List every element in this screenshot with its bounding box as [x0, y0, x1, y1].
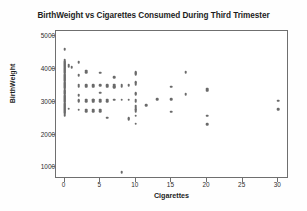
- data-point: [92, 85, 95, 88]
- x-tick-label: 0: [49, 181, 79, 188]
- y-tick-label: 2000: [13, 130, 55, 137]
- data-point: [135, 83, 138, 86]
- x-tick-label: 20: [191, 181, 221, 188]
- data-point: [99, 71, 102, 74]
- data-point: [145, 104, 148, 107]
- data-point: [127, 118, 130, 121]
- y-axis-ticks: 10002000300040005000: [0, 0, 55, 211]
- data-point: [277, 108, 280, 111]
- data-point: [206, 114, 209, 117]
- data-point: [78, 94, 81, 97]
- data-point: [135, 110, 138, 113]
- x-tick-label: 25: [227, 181, 257, 188]
- plot-area: [55, 30, 288, 178]
- data-point: [68, 107, 71, 110]
- data-point: [106, 100, 109, 103]
- data-point: [78, 61, 81, 64]
- data-point: [206, 90, 209, 93]
- data-point: [184, 93, 187, 96]
- data-point: [85, 100, 88, 103]
- data-point: [99, 84, 102, 87]
- y-tick-label: 1000: [13, 163, 55, 170]
- data-point: [127, 84, 130, 87]
- data-point: [99, 110, 102, 113]
- data-point: [135, 114, 138, 117]
- x-tick-mark: [170, 178, 171, 182]
- x-tick-mark: [64, 178, 65, 182]
- x-tick-mark: [135, 178, 136, 182]
- data-point: [99, 100, 102, 103]
- x-tick-label: 15: [155, 181, 185, 188]
- data-point: [135, 73, 138, 76]
- data-point: [78, 108, 81, 111]
- data-point: [184, 71, 187, 74]
- scatter-plot-figure: BirthWeight vs Cigarettes Consumed Durin…: [0, 0, 307, 211]
- data-point: [78, 100, 81, 103]
- data-point: [78, 85, 81, 88]
- data-point: [135, 100, 138, 103]
- data-point: [127, 98, 130, 101]
- data-point: [92, 100, 95, 103]
- x-tick-mark: [206, 178, 207, 182]
- data-point: [156, 98, 159, 101]
- x-tick-label: 10: [120, 181, 150, 188]
- data-point: [85, 71, 88, 74]
- data-point: [206, 123, 209, 126]
- x-tick-mark: [277, 178, 278, 182]
- y-tick-label: 3000: [13, 97, 55, 104]
- x-tick-mark: [99, 178, 100, 182]
- data-point: [170, 85, 173, 88]
- data-point: [113, 98, 116, 101]
- data-point: [113, 76, 116, 79]
- data-point: [170, 98, 173, 101]
- data-point: [135, 122, 138, 125]
- y-tick-label: 5000: [13, 31, 55, 38]
- data-point: [63, 48, 66, 51]
- data-point: [120, 98, 123, 101]
- data-point: [106, 117, 109, 120]
- data-point: [85, 85, 88, 88]
- x-tick-label: 30: [262, 181, 292, 188]
- data-point: [135, 93, 138, 96]
- data-point: [99, 91, 102, 94]
- data-point: [78, 74, 81, 77]
- data-point: [63, 115, 66, 118]
- x-tick-mark: [242, 178, 243, 182]
- data-point: [92, 110, 95, 113]
- data-point: [120, 85, 123, 88]
- data-point: [277, 99, 280, 102]
- data-point: [70, 67, 73, 70]
- data-point: [170, 110, 173, 113]
- y-tick-label: 4000: [13, 64, 55, 71]
- data-point: [120, 171, 123, 174]
- data-point: [113, 86, 116, 89]
- data-point: [106, 85, 109, 88]
- x-axis-label: Cigarettes: [55, 191, 288, 200]
- x-tick-label: 5: [84, 181, 114, 188]
- data-points-layer: [56, 31, 287, 177]
- data-point: [85, 110, 88, 113]
